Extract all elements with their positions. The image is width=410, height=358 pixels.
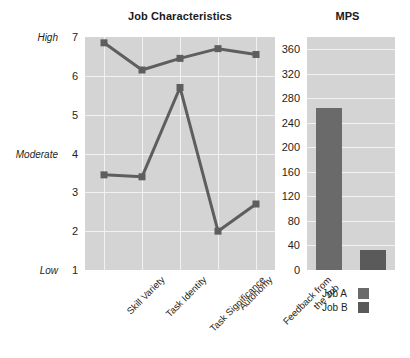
legend-item: Job B [322, 300, 369, 314]
data-point-marker [215, 228, 222, 235]
data-point-marker [101, 171, 108, 178]
y-axis-band-label: Low [2, 265, 58, 276]
data-point-marker [139, 173, 146, 180]
data-point-marker [215, 45, 222, 52]
y-axis-tick-label: 40 [260, 239, 300, 251]
gridline [307, 49, 395, 50]
figure: Job Characteristics MPS 1234567 HighMode… [0, 0, 410, 358]
y-axis-tick-label: 280 [260, 92, 300, 104]
data-point-marker [101, 39, 108, 46]
y-axis-tick-label: 240 [260, 117, 300, 129]
x-axis-tick-label: Task Identity [163, 274, 208, 319]
data-point-marker [253, 200, 260, 207]
legend-item-label: Job B [322, 302, 358, 313]
legend: Job AJob B [322, 286, 369, 314]
y-axis-tick-label: 200 [260, 141, 300, 153]
legend-swatch [358, 288, 369, 299]
legend-item-label: Job A [322, 288, 358, 299]
line-series [104, 87, 256, 231]
bar [316, 108, 342, 270]
gridline [307, 98, 395, 99]
y-axis-tick-label: 80 [260, 215, 300, 227]
y-axis-tick-label: 120 [260, 190, 300, 202]
legend-item: Job A [322, 286, 369, 300]
x-axis-tick-label: Skill Variety [124, 274, 166, 316]
y-axis-band-label: High [2, 32, 58, 43]
y-axis-band-label: Moderate [2, 148, 58, 159]
data-point-marker [253, 51, 260, 58]
y-axis-tick-label: 6 [38, 70, 78, 82]
y-axis-tick-label: 160 [260, 166, 300, 178]
data-point-marker [177, 55, 184, 62]
data-point-marker [139, 67, 146, 74]
y-axis-tick-label: 2 [38, 225, 78, 237]
y-axis-tick-label: 5 [38, 109, 78, 121]
data-point-marker [177, 84, 184, 91]
bar [360, 250, 386, 270]
chart-title-mps: MPS [300, 10, 395, 22]
gridline [307, 74, 395, 75]
line-chart-series-layer [85, 37, 275, 270]
chart-title-job-characteristics: Job Characteristics [85, 10, 275, 22]
y-axis-tick-label: 0 [260, 264, 300, 276]
y-axis-tick-label: 320 [260, 68, 300, 80]
legend-swatch [358, 302, 369, 313]
y-axis-tick-label: 3 [38, 186, 78, 198]
y-axis-tick-label: 360 [260, 43, 300, 55]
